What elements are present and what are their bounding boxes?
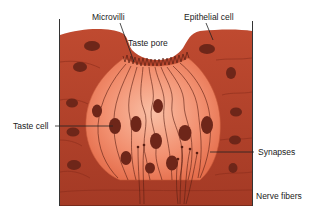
nucleus <box>66 99 78 108</box>
nucleus <box>145 163 155 174</box>
nucleus <box>84 41 100 51</box>
nucleus <box>67 128 80 137</box>
nucleus <box>121 151 132 165</box>
nucleus <box>150 133 162 149</box>
nucleus <box>166 156 178 171</box>
label-microvilli: Microvilli <box>92 13 125 22</box>
label-epithelial-cell: Epithelial cell <box>184 13 234 22</box>
nucleus <box>229 163 238 173</box>
synapse <box>181 146 184 149</box>
nucleus <box>179 125 192 141</box>
nucleus <box>73 62 87 72</box>
label-taste-cell: Taste cell <box>13 122 48 131</box>
nucleus <box>229 136 241 145</box>
nucleus <box>92 105 102 118</box>
nucleus <box>67 160 81 170</box>
synapse <box>189 148 192 151</box>
nucleus <box>199 44 215 54</box>
nucleus <box>230 108 242 117</box>
label-synapses: Synapses <box>258 148 295 157</box>
label-nerve-fibers: Nerve fibers <box>256 192 302 201</box>
label-taste-pore: Taste pore <box>128 39 168 48</box>
nucleus <box>226 67 236 79</box>
synapse <box>137 146 140 149</box>
nucleus <box>201 116 213 134</box>
synapse <box>196 152 199 155</box>
taste-bud-diagram <box>0 0 317 218</box>
synapse <box>177 158 180 161</box>
synapse <box>143 144 146 147</box>
nucleus <box>131 116 142 132</box>
nucleus <box>153 99 163 113</box>
